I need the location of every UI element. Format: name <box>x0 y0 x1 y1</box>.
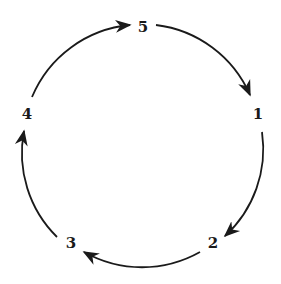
node-2-label: 2 <box>208 234 218 252</box>
edge-3-to-4 <box>22 131 57 237</box>
edge-1-to-2 <box>225 132 263 236</box>
edge-4-to-5 <box>32 25 130 97</box>
node-3-label: 3 <box>66 234 76 252</box>
node-4-label: 4 <box>22 105 32 123</box>
edge-5-to-1 <box>156 25 250 95</box>
edge-2-to-3 <box>84 252 200 267</box>
node-5-label: 5 <box>138 18 148 36</box>
cycle-diagram: 5 1 2 3 4 <box>0 0 281 284</box>
node-1-label: 1 <box>253 105 263 123</box>
